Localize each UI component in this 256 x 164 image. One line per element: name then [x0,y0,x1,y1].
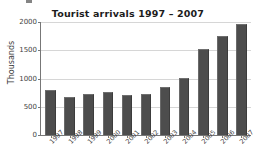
bar [236,24,247,135]
bar [141,94,152,135]
y-tick-mark [38,135,41,136]
y-tick-label: 1500 [19,46,37,54]
bar-group [83,22,94,135]
bar-group [198,22,209,135]
bar-group [160,22,171,135]
y-tick-label: 2000 [19,18,37,26]
bar [45,90,56,135]
y-tick-label: 0 [33,131,37,139]
bar-group [45,22,56,135]
bar [83,94,94,135]
bar-chart: Tourist arrivals 1997 – 2007 Thousands 0… [0,0,256,164]
bar-group [236,22,247,135]
bar-group [103,22,114,135]
bars-layer [41,22,251,135]
clipped-artifact [26,0,32,3]
bar-group [179,22,190,135]
chart-title: Tourist arrivals 1997 – 2007 [0,8,256,19]
bar [179,78,190,135]
bar-group [122,22,133,135]
bar-group [141,22,152,135]
bar [122,95,133,135]
y-tick-label: 500 [24,103,37,111]
plot-area: 0500100015002000 19971998199920002001200… [40,22,251,136]
y-tick-label: 1000 [19,75,37,83]
bar-group [217,22,228,135]
bar [103,92,114,136]
bar [160,87,171,135]
bar-group [64,22,75,135]
y-axis-title: Thousands [7,23,16,103]
bar [217,36,228,135]
bar [198,49,209,135]
bar [64,97,75,135]
